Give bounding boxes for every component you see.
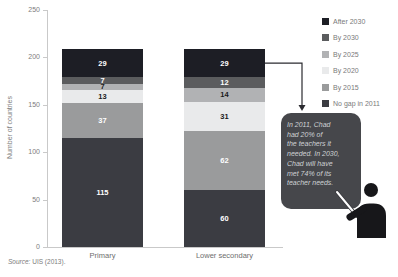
- bar-segment-primary-by-2015: 37: [62, 103, 143, 138]
- x-axis-line: [47, 247, 283, 248]
- bar-segment-lower-secondary-by-2020: 31: [184, 102, 265, 131]
- bar-segment-lower-secondary-no-gap-in-2011: 60: [184, 190, 265, 247]
- legend-swatch-icon: [322, 18, 329, 25]
- segment-value: 115: [96, 189, 108, 196]
- segment-value: 37: [98, 117, 106, 124]
- legend-swatch-icon: [322, 100, 329, 107]
- y-axis-line: [47, 10, 48, 248]
- legend-label: By 2025: [333, 51, 359, 58]
- y-axis-title: Number of countries: [6, 83, 13, 173]
- y-tick-label: 250: [10, 6, 40, 13]
- segment-value: 29: [220, 60, 228, 67]
- legend-label: By 2020: [333, 67, 359, 74]
- legend-item-by-2020: By 2020: [322, 63, 380, 80]
- legend-label: By 2030: [333, 34, 359, 41]
- y-tick-label: 0: [10, 243, 40, 250]
- legend: After 2030By 2030By 2025By 2020By 2015No…: [322, 13, 380, 112]
- bar-segment-primary-after-2030: 29: [62, 49, 143, 77]
- segment-value: 29: [98, 60, 106, 67]
- segment-value: 31: [220, 113, 228, 120]
- y-tick-label: 150: [10, 101, 40, 108]
- bar-segment-primary-by-2030: 7: [62, 77, 143, 84]
- annotation-text-line: the teachers it: [287, 139, 357, 149]
- legend-swatch-icon: [322, 34, 329, 41]
- source-note: Source: UIS (2013).: [8, 258, 65, 265]
- legend-swatch-icon: [322, 67, 329, 74]
- chart-figure: Number of countries After 2030By 2030By …: [0, 0, 398, 277]
- bar-segment-primary-by-2020: 13: [62, 90, 143, 102]
- y-tick-mark: [43, 152, 47, 153]
- annotation-text-line: In 2011, Chad: [287, 120, 357, 130]
- category-label-primary: Primary: [62, 251, 143, 260]
- bar-segment-primary-no-gap-in-2011: 115: [62, 138, 143, 247]
- annotation-text-line: teacher needs.: [287, 178, 357, 188]
- legend-item-by-2025: By 2025: [322, 46, 380, 63]
- y-tick-mark: [43, 10, 47, 11]
- segment-value: 7: [100, 77, 104, 84]
- callout-arrow: [265, 63, 302, 105]
- source-text: UIS (2013).: [32, 258, 65, 265]
- segment-value: 14: [220, 91, 228, 98]
- legend-item-by-2015: By 2015: [322, 79, 380, 96]
- y-tick-mark: [43, 57, 47, 58]
- callout-arrowhead-icon: [299, 105, 306, 111]
- y-tick-label: 200: [10, 53, 40, 60]
- annotation-text-line: Chad will have: [287, 159, 357, 169]
- legend-label: By 2015: [333, 84, 359, 91]
- y-tick-mark: [43, 105, 47, 106]
- segment-value: 13: [98, 93, 106, 100]
- legend-label: After 2030: [333, 18, 365, 25]
- legend-label: No gap in 2011: [333, 100, 380, 107]
- annotation-text-line: had 20% of: [287, 130, 357, 140]
- legend-item-no-gap-in-2011: No gap in 2011: [322, 96, 380, 113]
- segment-value: 12: [220, 79, 228, 86]
- bar-segment-lower-secondary-by-2015: 62: [184, 131, 265, 190]
- segment-value: 60: [220, 215, 228, 222]
- legend-item-by-2030: By 2030: [322, 30, 380, 47]
- legend-swatch-icon: [322, 51, 329, 58]
- category-label-lower-secondary: Lower secondary: [184, 251, 265, 260]
- y-tick-label: 50: [10, 196, 40, 203]
- y-tick-label: 100: [10, 148, 40, 155]
- annotation-callout: In 2011, Chadhad 20% ofthe teachers itne…: [281, 113, 361, 209]
- legend-swatch-icon: [322, 84, 329, 91]
- bar-segment-lower-secondary-after-2030: 29: [184, 49, 265, 77]
- y-tick-mark: [43, 247, 47, 248]
- y-tick-mark: [43, 200, 47, 201]
- annotation-text-line: needed. In 2030,: [287, 149, 357, 159]
- annotation-text-line: met 74% of its: [287, 169, 357, 179]
- legend-item-after-2030: After 2030: [322, 13, 380, 30]
- bar-segment-lower-secondary-by-2025: 14: [184, 88, 265, 101]
- segment-value: 62: [220, 157, 228, 164]
- source-label: Source:: [8, 258, 30, 265]
- bar-segment-lower-secondary-by-2030: 12: [184, 77, 265, 88]
